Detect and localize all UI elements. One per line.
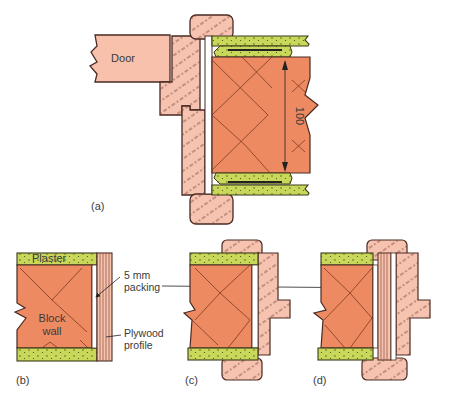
packing-gap [92, 265, 97, 348]
packing-label-1: 5 mm [124, 269, 151, 281]
panel-c: (c) [184, 240, 290, 386]
plywood-profile [97, 253, 112, 361]
panel-a-label: (a) [91, 200, 104, 212]
panel-c-label: (c) [185, 374, 198, 386]
block-wall-label-2: wall [42, 325, 62, 337]
panel-d-label: (d) [313, 374, 326, 386]
panel-b-label: (b) [16, 374, 29, 386]
plywood-profile [378, 253, 391, 360]
panel-a: 100 Door (a) [90, 15, 318, 224]
door-label: Door [111, 52, 135, 64]
block-wall-label-1: Block [39, 312, 66, 324]
plywood-label-1: Plywood [124, 327, 164, 339]
plywood-label-2: profile [124, 339, 153, 351]
dimension-value: 100 [294, 107, 306, 125]
plaster-label: Plaster [32, 252, 67, 264]
door-frame-detail-diagram: 100 Door (a) Plaster Block wall (b) 5 m [0, 0, 449, 396]
block-wall [184, 265, 252, 348]
packing-gap [252, 265, 258, 348]
panel-d: (d) [313, 240, 430, 386]
panel-b: Plaster Block wall (b) [15, 252, 112, 386]
packing-gap-2 [391, 253, 396, 360]
packing-label-2: packing [124, 281, 160, 293]
packing-gap [373, 265, 378, 348]
packing-gap [205, 36, 212, 194]
